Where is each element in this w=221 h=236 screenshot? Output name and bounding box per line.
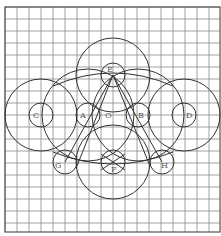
geometry-diagram: OEFABCDGH [0,0,221,236]
point-label-D: D [186,111,192,120]
point-label-E: E [107,65,113,74]
line-E-left-inner [77,75,113,166]
point-label-O: O [105,111,112,120]
diagram-canvas: OEFABCDGH [0,0,221,236]
point-label-F: F [111,165,117,174]
point-label-H: H [161,161,168,170]
point-label-C: C [33,111,39,120]
line-E-right-inner [113,75,150,166]
point-label-A: A [79,111,86,120]
point-label-G: G [55,161,61,170]
point-label-B: B [138,111,144,120]
